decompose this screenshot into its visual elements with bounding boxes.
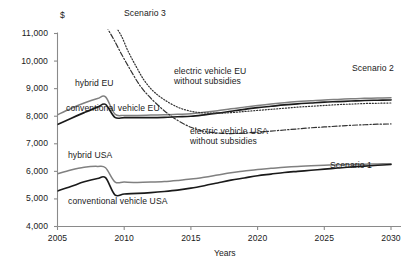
y-tick-label: 6,000: [4, 166, 48, 176]
y-tick-label: 9,000: [4, 83, 48, 93]
x-tick-label: 2015: [171, 233, 211, 243]
x-tick-label: 2020: [238, 233, 278, 243]
y-tick-label: 10,000: [4, 56, 48, 66]
series-line: [115, 25, 391, 113]
series-annotation-label: electric vehicle USAwithout subsidies: [190, 126, 268, 146]
series-annotation-label: Scenario 2: [352, 63, 394, 73]
y-tick-label: 8,000: [4, 111, 48, 121]
series-annotation-label: Scenario 3: [124, 8, 166, 18]
x-axis-title: Years: [214, 248, 236, 258]
y-tick-label: 5,000: [4, 193, 48, 203]
y-tick-label: 11,000: [4, 28, 48, 38]
chart-container: $ Years 4,0005,0006,0007,0008,0009,00010…: [0, 0, 420, 276]
y-tick-label: 7,000: [4, 138, 48, 148]
x-tick-label: 2030: [371, 233, 411, 243]
series-annotation-label: conventional vehicle EU: [66, 103, 160, 113]
series-annotation-label: hybrid EU: [75, 78, 114, 88]
series-annotation-label: Scenario 1: [330, 160, 372, 170]
series-annotation-label: conventional vehicle USA: [68, 196, 168, 206]
x-tick-label: 2010: [104, 233, 144, 243]
x-tick-label: 2005: [38, 233, 78, 243]
series-annotation-label: electric vehicle EUwithout subsidies: [174, 66, 246, 86]
y-axis-unit-label: $: [60, 10, 65, 20]
x-tick-label: 2025: [304, 233, 344, 243]
y-tick-label: 4,000: [4, 221, 48, 231]
series-annotation-label: hybrid USA: [68, 150, 112, 160]
